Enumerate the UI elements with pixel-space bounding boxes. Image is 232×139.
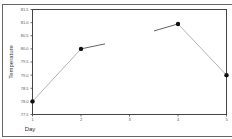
- y-tick-label: 78.5: [21, 86, 30, 91]
- y-tick-label: 78.0: [21, 99, 30, 104]
- plot-area: [33, 10, 227, 115]
- x-tick-label: 1: [31, 117, 34, 122]
- y-axis-title: Temperature: [8, 44, 14, 78]
- y-tick-label: 81.5: [21, 7, 30, 12]
- y-tick-label: 79.5: [21, 59, 30, 64]
- x-tick-label: 2: [80, 117, 83, 122]
- data-point: [224, 73, 228, 77]
- data-point: [79, 47, 83, 51]
- y-tick-label: 79.0: [21, 73, 30, 78]
- x-axis-title: Day: [25, 126, 36, 132]
- y-tick-label: 80.5: [21, 33, 30, 38]
- data-point: [30, 99, 34, 103]
- x-tick-label: 4: [177, 117, 180, 122]
- x-tick-label: 5: [225, 117, 228, 122]
- line-chart: 81.581.080.580.079.579.078.578.077.5 123…: [0, 0, 232, 139]
- y-tick-label: 80.0: [21, 46, 30, 51]
- y-tick-label: 81.0: [21, 20, 30, 25]
- data-point: [176, 22, 180, 26]
- x-tick-label: 3: [128, 117, 131, 122]
- y-tick-label: 77.5: [21, 112, 30, 117]
- x-axis: 12345: [31, 115, 228, 122]
